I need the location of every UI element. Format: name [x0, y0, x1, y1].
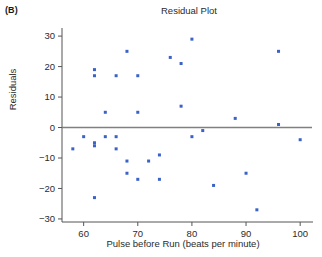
x-tick-label: 60	[78, 228, 89, 239]
data-point	[190, 135, 193, 138]
data-point	[245, 172, 248, 175]
data-point	[93, 74, 96, 77]
data-point	[136, 111, 139, 114]
data-points	[71, 38, 301, 212]
data-point	[71, 147, 74, 150]
y-tick-label: 10	[44, 91, 55, 102]
data-point	[93, 144, 96, 147]
x-tick-label: 70	[132, 228, 143, 239]
data-point	[234, 117, 237, 120]
residual-plot-figure: (B) Residual Plot Residuals Pulse before…	[0, 0, 322, 257]
data-point	[93, 141, 96, 144]
data-point	[125, 172, 128, 175]
data-point	[277, 50, 280, 53]
data-point	[93, 68, 96, 71]
x-tick-label: 80	[187, 228, 198, 239]
data-point	[147, 160, 150, 163]
data-point	[136, 178, 139, 181]
data-point	[115, 74, 118, 77]
data-point	[299, 138, 302, 141]
plot-area: 3020100−10−20−3060708090100	[0, 0, 322, 257]
tick-labels: 3020100−10−20−3060708090100	[39, 30, 308, 239]
data-point	[255, 208, 258, 211]
data-point	[190, 38, 193, 41]
y-tick-label: −30	[39, 213, 55, 224]
data-point	[104, 111, 107, 114]
data-point	[82, 135, 85, 138]
data-point	[180, 62, 183, 65]
x-tick-label: 90	[241, 228, 252, 239]
data-point	[169, 56, 172, 59]
y-tick-label: −20	[39, 183, 55, 194]
data-point	[201, 129, 204, 132]
data-point	[104, 135, 107, 138]
data-point	[115, 135, 118, 138]
data-point	[277, 123, 280, 126]
data-point	[125, 50, 128, 53]
y-tick-label: 0	[50, 122, 55, 133]
data-point	[180, 105, 183, 108]
data-point	[93, 196, 96, 199]
data-point	[212, 184, 215, 187]
x-tick-label: 100	[292, 228, 308, 239]
data-point	[115, 147, 118, 150]
y-tick-label: −10	[39, 152, 55, 163]
data-point	[125, 160, 128, 163]
data-point	[158, 178, 161, 181]
y-tick-label: 30	[44, 30, 55, 41]
data-point	[158, 153, 161, 156]
y-tick-label: 20	[44, 61, 55, 72]
data-point	[136, 74, 139, 77]
